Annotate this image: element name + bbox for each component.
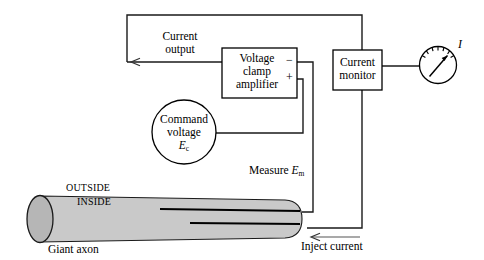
amplifier-minus-terminal: − [286,54,293,67]
diagram-canvas [0,0,484,260]
monitor-line-1: Current [333,56,382,69]
command-line-1: Command [152,113,216,126]
command-voltage-symbol: Ec [152,139,216,153]
current-meter-label: I [458,38,462,51]
inject-current-annotation: Inject current [301,240,363,253]
current-output-annotation: Current output [144,30,216,56]
measure-text: Measure [249,164,291,176]
command-line-2: voltage [152,126,216,139]
current-monitor-label: Current monitor [333,56,382,82]
outside-label: OUTSIDE [66,182,110,193]
current-output-line-2: output [144,43,216,56]
command-symbol-subscript: c [186,144,189,153]
measure-em-annotation: Measure Em [249,164,304,178]
command-voltage-label: Command voltage Ec [152,113,216,153]
voltage-clamp-amplifier-label: Voltage clamp amplifier [222,52,292,91]
voltage-clamp-diagram: Voltage clamp amplifier − + Current moni… [0,0,484,260]
measure-symbol-E: E [291,164,298,176]
amplifier-line-1: Voltage [222,52,292,65]
current-meter-gauge [420,47,457,84]
current-output-line-1: Current [144,30,216,43]
monitor-line-2: monitor [333,69,382,82]
measure-symbol-subscript: m [299,169,305,178]
amplifier-plus-terminal: + [286,71,293,84]
amplifier-line-2: clamp [222,65,292,78]
command-symbol-E: E [179,139,186,151]
giant-axon-label: Giant axon [48,243,99,256]
giant-axon-shape [27,196,302,243]
inside-label: INSIDE [77,196,111,207]
amplifier-line-3: amplifier [222,78,292,91]
